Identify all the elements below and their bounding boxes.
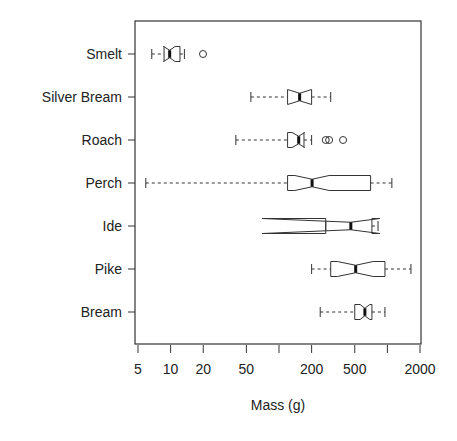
y-tick-label: Bream — [81, 304, 122, 320]
box-silver-bream — [251, 90, 331, 105]
box-pike — [312, 262, 411, 277]
x-axis: 51020502005002000 — [134, 345, 436, 377]
box-perch — [146, 176, 392, 191]
outlier-point — [340, 137, 347, 144]
notched-box — [331, 262, 385, 277]
box-bream — [320, 305, 385, 320]
notched-box — [262, 219, 380, 234]
y-tick-label: Silver Bream — [42, 89, 122, 105]
outlier-point — [200, 51, 207, 58]
box-roach — [236, 133, 347, 148]
x-tick-label: 2000 — [404, 361, 435, 377]
notched-box — [288, 133, 305, 148]
y-tick-label: Perch — [85, 175, 122, 191]
x-tick-label: 20 — [195, 361, 211, 377]
y-tick-label: Pike — [95, 261, 122, 277]
notched-box — [164, 47, 180, 62]
notched-box — [355, 305, 372, 320]
x-tick-label: 5 — [134, 361, 142, 377]
y-tick-label: Roach — [82, 132, 122, 148]
y-tick-label: Ide — [103, 218, 123, 234]
x-tick-label: 10 — [163, 361, 179, 377]
x-tick-label: 500 — [343, 361, 367, 377]
notched-box — [288, 176, 371, 191]
y-tick-label: Smelt — [86, 46, 122, 62]
x-axis-label: Mass (g) — [251, 397, 305, 413]
x-tick-label: 200 — [300, 361, 324, 377]
box-smelt — [152, 47, 207, 62]
boxplot-chart: SmeltSilver BreamRoachPerchIdePikeBream … — [0, 0, 457, 441]
x-tick-label: 50 — [239, 361, 255, 377]
y-axis: SmeltSilver BreamRoachPerchIdePikeBream — [42, 46, 135, 320]
plot-area — [135, 21, 421, 344]
box-ide — [262, 219, 380, 234]
